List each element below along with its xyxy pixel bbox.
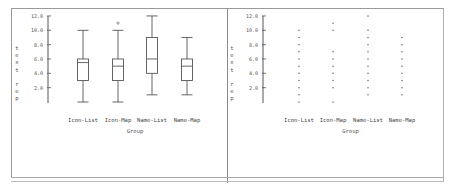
y-tick-label: 2.0 xyxy=(34,85,43,91)
x-category-label: Icon-List xyxy=(284,117,314,123)
y-tick-label: 6.0 xyxy=(34,56,43,62)
x-category-label: Name-Map xyxy=(174,117,201,124)
data-point xyxy=(401,58,403,60)
data-point xyxy=(298,58,300,60)
data-point xyxy=(367,37,369,39)
x-category-label: Icon-List xyxy=(68,117,98,123)
data-point xyxy=(367,65,369,67)
data-point xyxy=(298,37,300,39)
y-axis-title-letter: p xyxy=(230,95,233,102)
y-axis-title-letter: r xyxy=(230,81,234,87)
y-axis-title-letter: t xyxy=(15,67,18,73)
x-category-label: Name-Map xyxy=(389,117,416,124)
x-category-label: Name-List xyxy=(137,117,167,123)
data-point xyxy=(332,101,334,103)
data-point xyxy=(367,15,369,16)
data-point xyxy=(401,51,403,53)
data-point xyxy=(401,80,403,82)
chart-canvas: 12.010.08.06.04.02.0textrepIcon-ListIcon… xyxy=(0,0,455,191)
data-point xyxy=(367,87,369,89)
box-iqr xyxy=(147,37,158,73)
y-axis-title-letter: e xyxy=(15,88,18,94)
y-axis-title-letter: t xyxy=(15,45,18,51)
data-point xyxy=(401,87,403,89)
data-point xyxy=(332,65,334,67)
y-axis-title-letter: r xyxy=(15,81,19,87)
data-point xyxy=(401,37,403,39)
y-tick-label: 12.0 xyxy=(31,13,43,19)
data-point xyxy=(401,73,403,75)
data-point xyxy=(401,44,403,46)
data-point xyxy=(332,58,334,60)
data-point xyxy=(298,65,300,67)
y-tick-label: 12.0 xyxy=(246,13,258,19)
data-point xyxy=(401,65,403,67)
y-axis-title-letter: t xyxy=(230,45,233,51)
data-point xyxy=(298,44,300,46)
y-tick-label: 2.0 xyxy=(249,85,258,91)
y-axis-title-letter: t xyxy=(230,67,233,73)
y-axis-title-letter: e xyxy=(15,52,18,58)
y-tick-label: 8.0 xyxy=(249,42,258,48)
y-axis-title-letter: x xyxy=(15,59,19,65)
data-point xyxy=(332,22,334,24)
box-iqr xyxy=(182,59,193,81)
y-tick-label: 4.0 xyxy=(34,70,43,76)
x-axis-title: Group xyxy=(342,128,359,135)
y-axis-title-letter: x xyxy=(230,59,234,65)
x-category-label: Name-List xyxy=(353,117,383,123)
y-axis-title-letter: e xyxy=(230,88,233,94)
data-point xyxy=(367,58,369,60)
data-point xyxy=(332,87,334,89)
box-iqr xyxy=(113,59,124,81)
data-point xyxy=(298,73,300,75)
data-point xyxy=(298,51,300,53)
outlier-marker xyxy=(117,22,119,24)
data-point xyxy=(367,73,369,75)
data-point xyxy=(367,51,369,53)
data-point xyxy=(298,94,300,96)
data-point xyxy=(401,94,403,96)
data-point xyxy=(367,80,369,82)
data-point xyxy=(298,80,300,82)
data-point xyxy=(298,101,300,103)
x-category-label: Icon-Map xyxy=(105,117,132,124)
y-tick-label: 8.0 xyxy=(34,42,43,48)
data-point xyxy=(298,87,300,89)
y-tick-label: 6.0 xyxy=(249,56,258,62)
y-tick-label: 10.0 xyxy=(31,27,43,33)
data-point xyxy=(298,30,300,32)
data-point xyxy=(332,51,334,53)
data-point xyxy=(367,44,369,46)
data-point xyxy=(367,94,369,96)
data-point xyxy=(332,80,334,82)
y-tick-label: 10.0 xyxy=(246,27,258,33)
data-point xyxy=(367,30,369,32)
y-axis-title-letter: e xyxy=(230,52,233,58)
x-category-label: Icon-Map xyxy=(320,117,347,124)
data-point xyxy=(332,73,334,75)
y-axis-title-letter: p xyxy=(15,95,18,102)
data-point xyxy=(332,30,334,32)
x-axis-title: Group xyxy=(127,128,144,135)
y-tick-label: 4.0 xyxy=(249,70,258,76)
